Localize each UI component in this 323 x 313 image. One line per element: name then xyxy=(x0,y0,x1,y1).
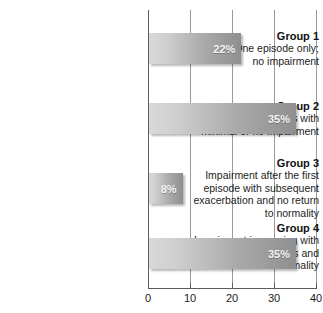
bar-group-1[interactable]: 22% xyxy=(149,33,241,64)
category-title: Group 4 xyxy=(177,222,319,234)
x-tick-label-20: 20 xyxy=(226,292,238,304)
bar-group-3[interactable]: 8% xyxy=(149,173,183,204)
bar-value-label: 35% xyxy=(268,248,296,260)
category-description-line: exacerbation and no return xyxy=(177,194,319,206)
bar-row-group-3: 8% xyxy=(149,173,183,204)
bar-row-group-4: 35% xyxy=(149,238,296,269)
bar-row-group-2: 35% xyxy=(149,103,296,134)
bar-value-label: 35% xyxy=(268,113,296,125)
category-title: Group 3 xyxy=(177,157,319,169)
category-description-line: episode with subsequent xyxy=(177,182,319,194)
category-description-line: Impairment after the first xyxy=(177,169,319,181)
x-tick-0 xyxy=(148,283,149,289)
x-tick-label-30: 30 xyxy=(268,292,280,304)
x-tick-label-0: 0 xyxy=(145,292,151,304)
x-tick-label-40: 40 xyxy=(310,292,322,304)
category-label-group-3: Group 3 Impairment after the first episo… xyxy=(177,157,323,219)
bar-row-group-1: 22% xyxy=(149,33,241,64)
x-tick-40 xyxy=(316,283,317,289)
x-tick-20 xyxy=(232,283,233,289)
bar-group-2[interactable]: 35% xyxy=(149,103,296,134)
x-tick-30 xyxy=(274,283,275,289)
x-tick-10 xyxy=(190,283,191,289)
bar-chart: Group 1 One episode only; no impairment … xyxy=(0,0,323,313)
bar-value-label: 22% xyxy=(213,43,241,55)
x-tick-label-10: 10 xyxy=(184,292,196,304)
bar-group-4[interactable]: 35% xyxy=(149,238,296,269)
bar-value-label: 8% xyxy=(161,183,183,195)
category-description-line: to normality xyxy=(177,207,319,219)
